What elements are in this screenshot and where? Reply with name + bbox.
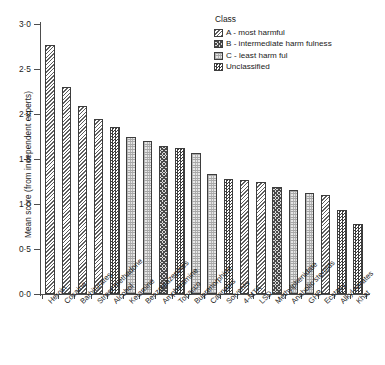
bar [45,45,55,294]
bar [94,119,104,294]
bar [240,180,250,294]
legend-item-label: C - least harm ful [226,51,288,61]
legend-items: A - most harmfulB - intermediate harm fu… [214,27,382,73]
y-tick-label: 3·0 [19,19,31,29]
x-tick [42,294,43,299]
y-tick-label: 1·0 [19,199,31,209]
y-tick-label: 1·5 [19,154,31,164]
bar [110,127,120,294]
bar-chart-figure: Mean score (from independent experts) 3·… [0,0,385,365]
legend-item: C - least harm ful [214,50,382,61]
legend-item-label: B - intermediate harm fulness [226,39,332,49]
legend-item: Unclassified [214,62,382,73]
legend-swatch-icon [214,52,223,60]
y-tick: 0·0 [34,294,40,295]
bar [256,182,266,294]
legend-swatch-icon [214,63,223,71]
bar [321,195,331,294]
y-tick-label: 2·5 [19,64,31,74]
legend-item: B - intermediate harm fulness [214,39,382,50]
y-tick-label: 2·0 [19,109,31,119]
legend-item-label: Unclassified [226,62,270,72]
legend: Class A - most harmfulB - intermediate h… [214,14,382,73]
legend-swatch-icon [214,40,223,48]
legend-title: Class [215,14,382,24]
bar [159,146,169,295]
legend-swatch-icon [214,29,223,37]
bar [62,87,72,294]
legend-item-label: A - most harmful [226,28,285,38]
bar [78,106,88,294]
bar [143,141,153,294]
legend-item: A - most harmful [214,27,382,38]
bar [272,187,282,294]
y-tick-label: 0·0 [19,289,31,299]
y-tick-label: 0·5 [19,244,31,254]
